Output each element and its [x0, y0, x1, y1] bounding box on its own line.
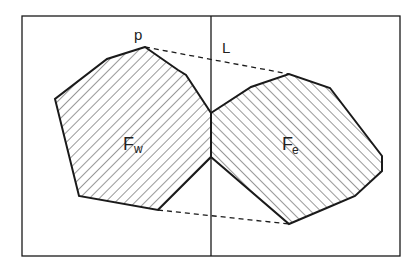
svg-text:F: F — [123, 134, 134, 154]
lower-tangent-dashed — [158, 210, 289, 224]
label-p: p — [134, 26, 142, 43]
merge-hull-diagram: p L F w F e — [0, 0, 420, 271]
svg-text:w: w — [133, 142, 143, 156]
svg-text:e: e — [292, 143, 299, 157]
west-hull-polygon — [55, 47, 211, 210]
label-L: L — [222, 39, 230, 56]
